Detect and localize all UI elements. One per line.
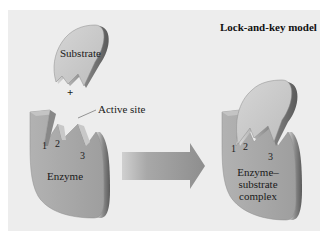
enzyme-label: Enzyme [47, 170, 83, 182]
complex-label: Enzyme– substrate complex [228, 166, 288, 202]
complex-label-line-1: Enzyme– [228, 166, 288, 178]
site-number-1: 1 [42, 140, 47, 151]
site-number-3: 3 [80, 150, 85, 161]
complex-site-number-1: 1 [231, 143, 236, 154]
active-site-label: Active site [98, 103, 145, 115]
substrate-label: Substrate [60, 47, 101, 59]
active-site-pointer [78, 110, 96, 118]
reaction-arrow-icon [122, 143, 205, 189]
enzyme-shape [30, 110, 110, 218]
complex-site-number-2: 2 [243, 141, 248, 152]
complex-label-line-3: complex [228, 190, 288, 202]
model-title: Lock-and-key model [220, 21, 317, 33]
site-number-2: 2 [55, 138, 60, 149]
complex-label-line-2: substrate [228, 178, 288, 190]
plus-sign: + [67, 86, 73, 98]
complex-site-number-3: 3 [268, 151, 273, 162]
